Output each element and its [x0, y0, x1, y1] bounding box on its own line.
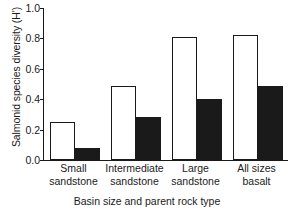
bar-open — [111, 86, 136, 160]
x-axis-title: Basin size and parent rock type — [0, 195, 294, 207]
bar-group — [44, 8, 105, 160]
bar-group — [227, 8, 288, 160]
bar-open — [233, 35, 258, 160]
y-axis-tick-label: 0.4 — [16, 94, 40, 104]
bar-open — [50, 122, 75, 160]
y-axis-tick-label: 0.2 — [16, 125, 40, 135]
x-axis-tick-label: Intermediatesandstone — [104, 162, 165, 187]
bar-group — [105, 8, 166, 160]
y-axis-tick-mark — [40, 160, 45, 161]
y-axis-tick-labels: 0.00.20.40.60.81.0 — [14, 0, 40, 213]
x-axis-tick-label-line: Small — [43, 162, 104, 175]
bar-filled — [258, 86, 283, 160]
bar-filled — [197, 99, 222, 160]
y-axis-tick-label: 1.0 — [16, 3, 40, 13]
y-axis-tick-label: 0.6 — [16, 64, 40, 74]
x-axis-tick-label-line: sandstone — [165, 175, 226, 188]
x-axis-tick-label: Largesandstone — [165, 162, 226, 187]
bar-filled — [136, 117, 161, 160]
bar-group — [166, 8, 227, 160]
x-axis-title-text: Basin size and parent rock type — [74, 195, 221, 207]
x-axis-tick-label: All sizesbasalt — [226, 162, 287, 187]
bar-filled — [75, 148, 100, 160]
x-axis-tick-label-line: Large — [165, 162, 226, 175]
plot-area — [43, 8, 288, 161]
x-axis-tick-label-line: sandstone — [43, 175, 104, 188]
x-axis-tick-label-line: Intermediate — [104, 162, 165, 175]
bar-open — [172, 37, 197, 160]
x-axis-tick-label-line: sandstone — [104, 175, 165, 188]
x-axis-tick-label: Smallsandstone — [43, 162, 104, 187]
chart-figure: Salmonid species diversity (H') 0.00.20.… — [0, 0, 294, 213]
x-axis-tick-labels: SmallsandstoneIntermediatesandstoneLarge… — [43, 162, 287, 192]
x-axis-tick-label-line: All sizes — [226, 162, 287, 175]
x-axis-tick-label-line: basalt — [226, 175, 287, 188]
y-axis-tick-label: 0.8 — [16, 33, 40, 43]
y-axis-tick-label: 0.0 — [16, 155, 40, 165]
